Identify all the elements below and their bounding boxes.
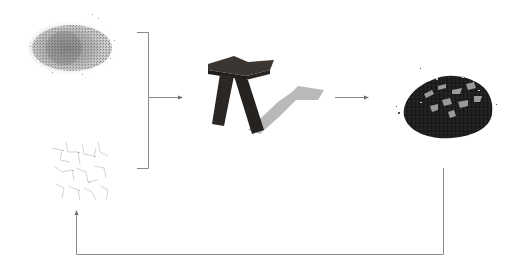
arrowhead-up-icon [75, 210, 79, 215]
sawdust-pile-image [22, 10, 122, 80]
fiber-network-image [48, 138, 114, 204]
process-diagram [0, 0, 527, 272]
arrowhead-right-icon [364, 96, 369, 100]
stool-image [200, 50, 330, 140]
arrowhead-right-icon [178, 96, 183, 100]
shredded-pile-image [392, 60, 502, 142]
